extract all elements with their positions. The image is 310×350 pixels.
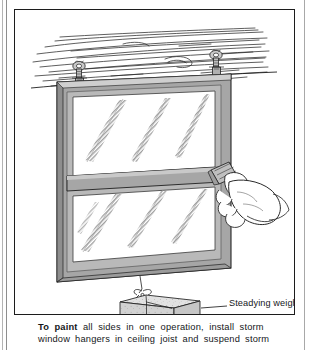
steadying-weight (120, 290, 200, 314)
callout-leader-line (201, 306, 227, 308)
window-upper-pane (73, 91, 215, 176)
page-gutter-rule-outer (2, 0, 3, 350)
window-left-stile-depth (57, 82, 63, 282)
page-edge-rule-right (304, 0, 305, 350)
caption-line-1: To paint all sides in one operation, ins… (38, 321, 292, 333)
caption-line-2: window hangers in ceiling joist and susp… (38, 333, 292, 345)
caption-lead-in: To paint (38, 322, 78, 332)
storm-window (57, 74, 231, 282)
illustration-frame: Steadying weight (14, 9, 295, 315)
caption-line-1-rest: all sides in one operation, install stor… (83, 322, 264, 332)
callout-steadying-weight: Steadying weight (229, 298, 295, 308)
storm-window-illustration (15, 10, 294, 314)
page-gutter-rule-inner (6, 0, 7, 350)
figure-caption: To paint all sides in one operation, ins… (38, 321, 292, 345)
